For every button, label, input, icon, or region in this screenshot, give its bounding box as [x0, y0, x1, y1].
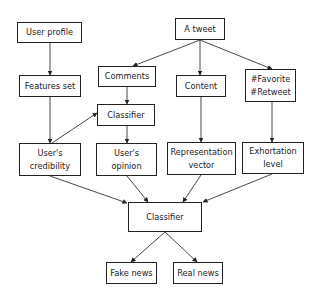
node-label: Real news: [177, 267, 218, 280]
node-real-news: Real news: [173, 262, 223, 284]
node-user-profile: User profile: [17, 22, 82, 43]
node-label-line2: level: [263, 158, 282, 171]
node-label-line1: #Favorite: [251, 73, 291, 86]
node-label: Classifier: [107, 109, 144, 122]
node-label-line2: vector: [189, 159, 215, 172]
node-users-credibility: User's credibility: [19, 143, 81, 176]
edge-exhortation-to-classifier-final: [203, 174, 272, 202]
node-label: A tweet: [184, 23, 215, 36]
node-label: Comments: [105, 70, 149, 83]
node-label-line1: User's: [114, 147, 139, 160]
node-label-line2: #Retweet: [250, 86, 290, 99]
node-label-line1: Representation: [170, 146, 232, 159]
node-label: Content: [185, 80, 218, 93]
node-users-opinion: User's opinion: [96, 143, 157, 176]
node-representation-vector: Representation vector: [167, 142, 236, 175]
node-content: Content: [176, 75, 226, 97]
edge-tweet-to-comments: [133, 40, 200, 66]
node-label: Classifier: [146, 211, 183, 224]
node-classifier-final: Classifier: [128, 202, 202, 232]
node-exhortation-level: Exhortation level: [242, 142, 304, 174]
edge-representation-to-classifier-final: [183, 175, 201, 202]
edge-classifier-final-to-fake-news: [131, 232, 165, 262]
node-label: Fake news: [110, 267, 152, 280]
edge-credibility-to-classifier-mid: [52, 113, 97, 143]
edge-opinion-to-classifier-final: [127, 176, 148, 202]
edge-classifier-final-to-real-news: [165, 232, 197, 262]
node-label-line1: User's: [37, 147, 62, 160]
node-classifier-mid: Classifier: [97, 104, 155, 126]
node-label: Features set: [25, 80, 75, 93]
node-label-line2: opinion: [111, 160, 141, 173]
node-comments: Comments: [98, 66, 156, 87]
node-a-tweet: A tweet: [175, 18, 225, 40]
node-label-line1: Exhortation: [249, 145, 297, 158]
edge-tweet-to-favorite: [200, 40, 272, 69]
node-favorite-retweet: #Favorite #Retweet: [245, 69, 296, 102]
node-fake-news: Fake news: [106, 262, 157, 284]
node-label: User profile: [26, 26, 73, 39]
node-label-line2: credibility: [30, 160, 70, 173]
node-features-set: Features set: [19, 75, 81, 97]
edge-credibility-to-classifier-final: [50, 176, 127, 203]
